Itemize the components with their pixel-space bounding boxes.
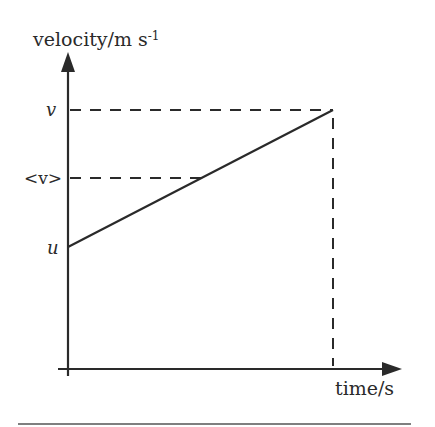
velocity-line [68, 110, 333, 247]
y-axis-label: velocity/m s-1 [32, 28, 160, 50]
x-axis-arrow-icon [382, 362, 402, 376]
velocity-time-graph: velocity/m s-1 v <v> u time/s [0, 0, 435, 427]
x-axis-label: time/s [335, 377, 394, 399]
y-axis-arrow-icon [61, 52, 75, 72]
avg-v-tick-label: <v> [24, 168, 62, 188]
u-tick-label: u [47, 237, 59, 258]
v-tick-label: v [46, 99, 56, 120]
